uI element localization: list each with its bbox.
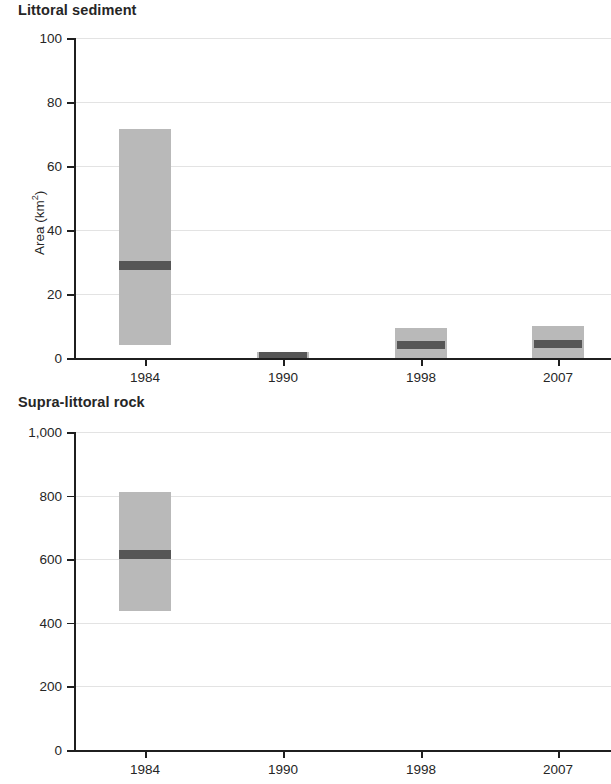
y-tick-top-0 — [67, 358, 74, 360]
y-tick-label-bottom-1000: 1,000 — [28, 425, 62, 440]
x-tick-label-top-1984: 1984 — [130, 370, 160, 385]
y-tick-label-bottom-0: 0 — [54, 743, 62, 758]
x-tick-top-1998 — [421, 358, 423, 366]
x-axis-line-top — [74, 358, 611, 360]
median-bar-top-1998 — [397, 341, 445, 349]
chart-panel-supra-littoral-rock: Supra-littoral rock 1,000 800 600 400 20… — [0, 392, 611, 784]
y-tick-label-top-0: 0 — [54, 351, 62, 366]
y-tick-bottom-1000 — [67, 432, 74, 434]
y-axis-title-top-exponent: 2 — [30, 195, 40, 200]
gridline-bottom-400 — [74, 623, 611, 624]
y-tick-label-bottom-200: 200 — [39, 679, 62, 694]
range-box-top-1984 — [119, 129, 171, 345]
y-tick-top-60 — [67, 166, 74, 168]
x-tick-bottom-1998 — [421, 750, 423, 758]
y-tick-label-bottom-800: 800 — [39, 488, 62, 503]
median-bar-top-1984 — [119, 261, 171, 270]
y-tick-bottom-200 — [67, 686, 74, 688]
y-tick-top-40 — [67, 230, 74, 232]
x-tick-label-bottom-1984: 1984 — [130, 762, 160, 777]
chart-panel-littoral-sediment: Littoral sediment Area (km2) 100 80 60 4… — [0, 0, 611, 392]
y-tick-label-top-60: 60 — [47, 159, 62, 174]
x-tick-bottom-2007 — [558, 750, 560, 758]
y-tick-label-bottom-400: 400 — [39, 615, 62, 630]
x-tick-label-bottom-1998: 1998 — [406, 762, 436, 777]
y-tick-bottom-400 — [67, 623, 74, 625]
x-tick-label-bottom-1990: 1990 — [268, 762, 298, 777]
x-tick-label-bottom-2007: 2007 — [543, 762, 573, 777]
median-bar-bottom-1984 — [119, 550, 171, 559]
y-axis-line-bottom — [74, 432, 76, 750]
x-tick-top-2007 — [558, 358, 560, 366]
gridline-bottom-1000 — [74, 432, 611, 433]
y-tick-bottom-600 — [67, 559, 74, 561]
median-bar-top-2007 — [534, 340, 582, 348]
median-bar-top-1990 — [259, 352, 307, 358]
x-tick-top-1984 — [145, 358, 147, 366]
x-tick-label-top-2007: 2007 — [543, 370, 573, 385]
y-tick-top-20 — [67, 294, 74, 296]
plot-area-top: 100 80 60 40 20 0 1984 1990 1998 2007 — [74, 38, 611, 358]
y-tick-bottom-800 — [67, 496, 74, 498]
y-tick-label-bottom-600: 600 — [39, 552, 62, 567]
page-title-bottom: Supra-littoral rock — [18, 394, 145, 410]
page-title-top: Littoral sediment — [18, 2, 137, 18]
y-tick-top-100 — [67, 38, 74, 40]
y-tick-bottom-0 — [67, 750, 74, 752]
x-tick-label-top-1990: 1990 — [268, 370, 298, 385]
y-tick-top-80 — [67, 102, 74, 104]
gridline-bottom-200 — [74, 686, 611, 687]
y-axis-line-top — [74, 38, 76, 358]
x-tick-bottom-1984 — [145, 750, 147, 758]
y-tick-label-top-20: 20 — [47, 287, 62, 302]
x-axis-line-bottom — [74, 750, 611, 752]
y-tick-label-top-40: 40 — [47, 223, 62, 238]
gridline-top-80 — [74, 102, 611, 103]
plot-area-bottom: 1,000 800 600 400 200 0 1984 1990 1998 2… — [74, 432, 611, 750]
y-tick-label-top-100: 100 — [39, 31, 62, 46]
x-tick-label-top-1998: 1998 — [406, 370, 436, 385]
y-axis-title-top-text: Area (km — [32, 200, 47, 255]
y-axis-title-top-close: ) — [32, 191, 47, 196]
y-tick-label-top-80: 80 — [47, 95, 62, 110]
y-axis-title-top: Area (km2) — [30, 191, 47, 255]
x-tick-top-1990 — [283, 358, 285, 366]
x-tick-bottom-1990 — [283, 750, 285, 758]
gridline-top-100 — [74, 38, 611, 39]
